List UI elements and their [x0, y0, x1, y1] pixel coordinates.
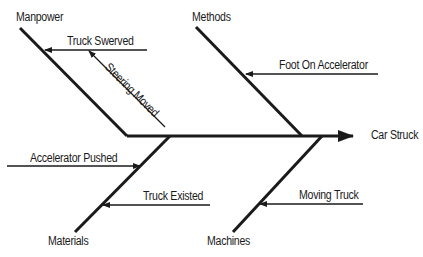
effect-label: Car Struck — [371, 128, 418, 142]
methods-bone — [196, 27, 302, 136]
category-manpower: Manpower — [16, 10, 63, 24]
cause-foot-on-accelerator: Foot On Accelerator — [279, 58, 368, 72]
cause-accelerator-pushed: Accelerator Pushed — [30, 151, 117, 165]
machines-bone — [233, 136, 322, 232]
fishbone-diagram — [0, 0, 423, 257]
cause-truck-swerved: Truck Swerved — [67, 34, 134, 48]
cause-moving-truck: Moving Truck — [299, 188, 359, 202]
category-materials: Materials — [48, 234, 88, 248]
cause-truck-existed: Truck Existed — [143, 189, 203, 203]
category-machines: Machines — [207, 234, 250, 248]
category-methods: Methods — [192, 10, 231, 24]
